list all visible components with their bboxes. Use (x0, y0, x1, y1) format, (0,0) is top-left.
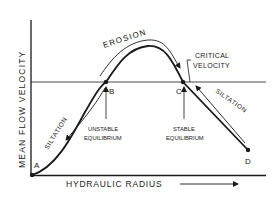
x-axis-label: HYDRAULIC RADIUS (66, 179, 162, 189)
y-axis-label: MEAN FLOW VELOCITY (17, 51, 27, 168)
critical-velocity-pointer (187, 60, 191, 82)
siltation-left-label: SILTATION (43, 116, 68, 151)
point-a-label: A (34, 161, 40, 170)
siltation-right-label: SILTATION (214, 87, 248, 114)
point-d-marker (246, 148, 250, 152)
stable-equilibrium-line1: STABLE (173, 126, 195, 132)
siltation-left-arrow (66, 88, 105, 140)
critical-velocity-label-line2: VELOCITY (193, 62, 230, 69)
unstable-equilibrium-line1: UNSTABLE (88, 126, 118, 132)
unstable-equilibrium-line2: EQUILIBRIUM (84, 135, 122, 141)
point-b-marker (104, 80, 108, 84)
stability-diagram: MEAN FLOW VELOCITY HYDRAULIC RADIUS EROS… (0, 0, 273, 203)
point-c-label: C (176, 87, 182, 96)
point-b-label: B (109, 87, 114, 96)
point-d-label: D (245, 157, 251, 166)
point-a-marker (30, 173, 34, 177)
stable-equilibrium-line2: EQUILIBRIUM (166, 135, 204, 141)
point-c-marker (181, 80, 185, 84)
critical-velocity-label-line1: CRITICAL (195, 52, 229, 59)
